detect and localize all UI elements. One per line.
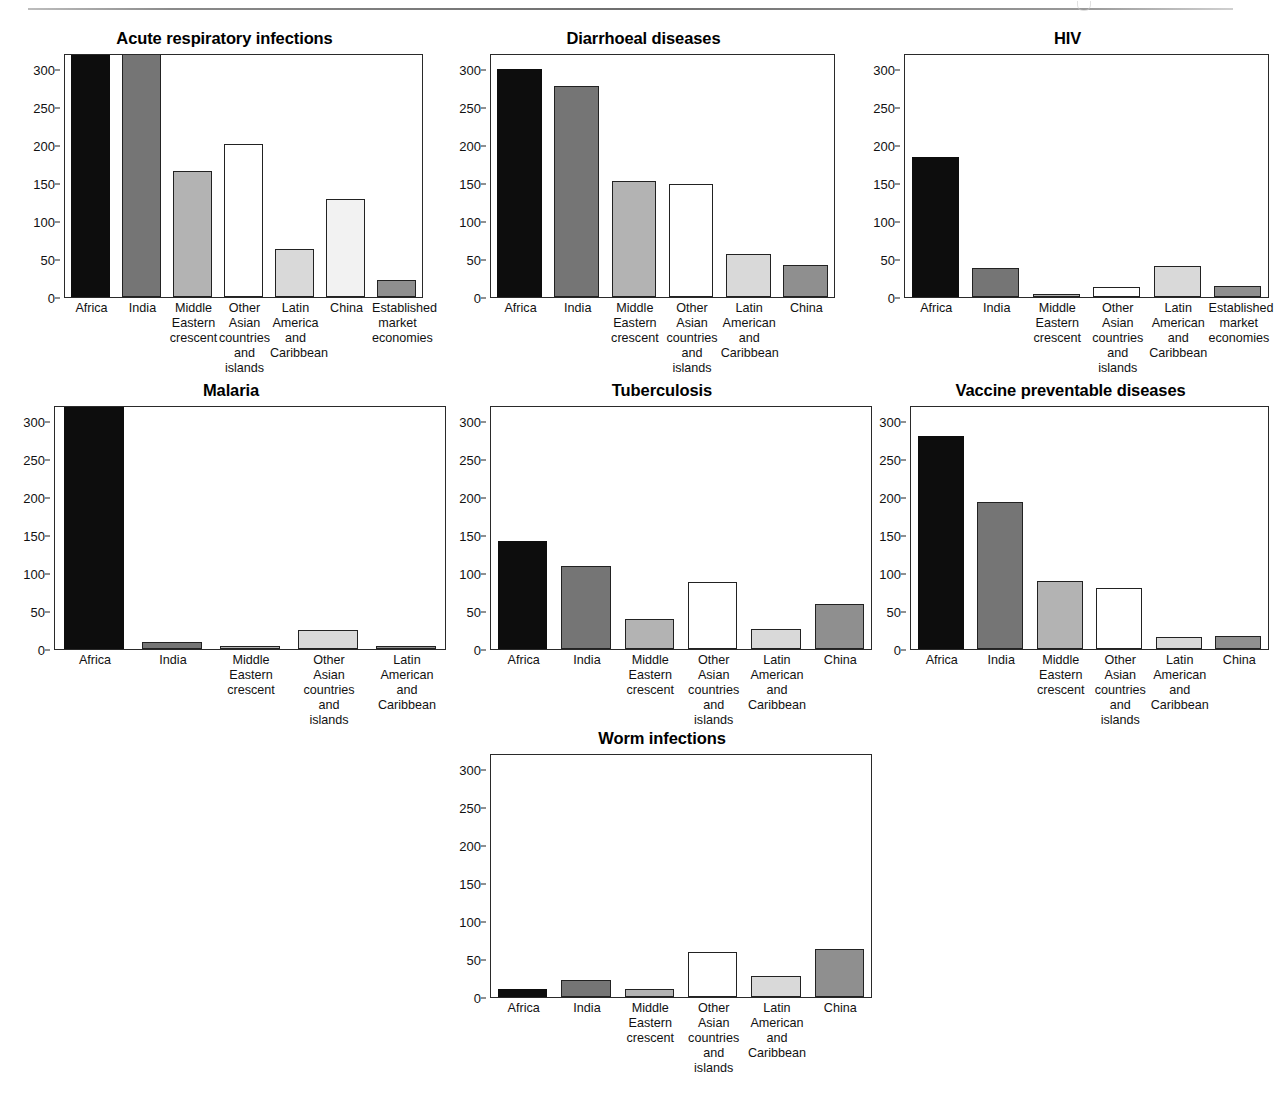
y-axis-tick-mark (55, 222, 60, 223)
x-axis-tick-label: China (1210, 653, 1270, 727)
y-axis-tick-label: 150 (459, 177, 481, 190)
x-axis-tick-label-line: crescent (1027, 331, 1088, 346)
y-axis-tick-label: 0 (38, 644, 45, 657)
bar (1096, 588, 1142, 650)
bar (122, 54, 162, 297)
x-axis-tick-label-line: India (972, 653, 1032, 668)
y-axis-tick-mark (481, 69, 486, 70)
y-axis-tick-mark (901, 497, 906, 498)
x-axis-tick-label-line: Eastern (619, 668, 682, 683)
y-axis-tick-label: 250 (459, 453, 481, 466)
bar-series (491, 755, 871, 997)
x-axis-tick-label-line: India (117, 301, 168, 316)
y-axis-tick-mark (901, 650, 906, 651)
x-axis-tick-label-line: American (745, 668, 808, 683)
x-axis-tick-label: MiddleEasterncrescent (619, 1001, 682, 1075)
y-axis: 050100150200250300 (866, 54, 900, 298)
x-axis-tick-label: LatinAmericanandCaribbean (721, 301, 778, 375)
chart-title: Diarrhoeal diseases (452, 30, 835, 47)
x-axis-tick-label-line: countries (663, 331, 720, 346)
chart-panel-malaria: Malaria050100150200250300AfricaIndiaMidd… (16, 382, 446, 650)
y-axis-tick-mark (45, 421, 50, 422)
x-axis-tick-label: China (778, 301, 835, 375)
x-axis-tick-label: LatinAmericanandCaribbean (1148, 301, 1209, 375)
x-axis-tick-label-line: Latin (368, 653, 446, 668)
y-axis-tick-label: 150 (879, 529, 901, 542)
bar (1037, 581, 1083, 649)
x-axis-tick-label-line: countries (682, 683, 745, 698)
x-axis-tick-label-line: and (1148, 331, 1209, 346)
plot-area: 050100150200250300 (16, 406, 446, 650)
y-axis-tick-mark (895, 298, 900, 299)
y-axis-tick-mark (45, 650, 50, 651)
y-axis-tick-mark (481, 922, 486, 923)
x-axis-tick-label-line: and (219, 346, 270, 361)
y-axis-tick-label: 250 (33, 101, 55, 114)
bar (64, 406, 125, 649)
x-axis-tick-label: Establishedmarketeconomies (372, 301, 423, 375)
y-axis-tick-mark (901, 421, 906, 422)
x-axis-tick-label-line: Latin (745, 1001, 808, 1016)
x-axis-tick-label-line: Middle (212, 653, 290, 668)
y-axis-tick-label: 50 (881, 254, 895, 267)
x-axis-tick-label-line: countries (1091, 683, 1151, 698)
bar (815, 604, 864, 649)
y-axis-tick-mark (895, 69, 900, 70)
bar (554, 86, 599, 297)
y-axis-tick-label: 250 (879, 453, 901, 466)
bar (1154, 266, 1201, 297)
x-axis-tick-label-line: Africa (906, 301, 967, 316)
bar (751, 976, 800, 997)
x-axis-tick-label-line: Caribbean (745, 698, 808, 713)
bar (498, 541, 547, 649)
x-axis-tick-label: China (321, 301, 372, 375)
y-axis-tick-label: 100 (459, 916, 481, 929)
y-axis-tick-label: 300 (33, 63, 55, 76)
x-axis-tick-label-line: Latin (721, 301, 778, 316)
x-axis-labels: AfricaIndiaMiddleEasterncrescentOtherAsi… (66, 301, 423, 375)
y-axis-tick-mark (481, 883, 486, 884)
y-axis-tick-label: 300 (23, 415, 45, 428)
y-axis-tick-label: 300 (459, 63, 481, 76)
bar-series (905, 55, 1268, 297)
x-axis-tick-label: Africa (492, 1001, 555, 1075)
x-axis-tick-label: India (555, 1001, 618, 1075)
y-axis-tick-mark (895, 107, 900, 108)
x-axis-tick-label-line: Eastern (619, 1016, 682, 1031)
x-axis-tick-label-line: and (682, 698, 745, 713)
x-axis-tick-label-line: islands (219, 361, 270, 376)
x-axis-tick-label-line: Caribbean (1148, 346, 1209, 361)
x-axis-tick-label-line: market (1209, 316, 1270, 331)
y-axis-tick-label: 150 (459, 529, 481, 542)
x-axis-tick-label: MiddleEasterncrescent (212, 653, 290, 727)
x-axis-tick-label: Africa (492, 653, 555, 727)
bar (1214, 286, 1261, 297)
y-axis-tick-label: 200 (459, 139, 481, 152)
x-axis-tick-label-line: Caribbean (721, 346, 778, 361)
y-axis-tick-label: 0 (474, 644, 481, 657)
y-axis-tick-label: 100 (873, 216, 895, 229)
chart-panel-worm-infections: Worm infections050100150200250300AfricaI… (452, 730, 872, 998)
bar (561, 566, 610, 649)
y-axis-tick-label: 250 (459, 801, 481, 814)
bar (275, 249, 315, 298)
x-axis-tick-label-line: and (270, 331, 321, 346)
x-axis-tick-label-line: crescent (1031, 683, 1091, 698)
y-axis-tick-mark (895, 183, 900, 184)
x-axis-tick-label-line: China (321, 301, 372, 316)
bar (625, 989, 674, 997)
x-axis-tick-label-line: Africa (66, 301, 117, 316)
bar (498, 989, 547, 997)
x-axis-tick-label-line: Africa (492, 301, 549, 316)
x-axis-tick-label-line: Established (372, 301, 423, 316)
bar (298, 630, 359, 649)
x-axis-tick-label: LatinAmericanandCaribbean (1150, 653, 1210, 727)
x-axis-tick-label-line: Other (1091, 653, 1151, 668)
x-axis-tick-label-line: Eastern (168, 316, 219, 331)
x-axis-labels: AfricaIndiaMiddleEasterncrescentOtherAsi… (906, 301, 1269, 375)
y-axis-tick-label: 0 (894, 644, 901, 657)
y-axis: 050100150200250300 (452, 754, 486, 998)
chart-title: Vaccine preventable diseases (872, 382, 1269, 399)
y-axis: 050100150200250300 (452, 406, 486, 650)
